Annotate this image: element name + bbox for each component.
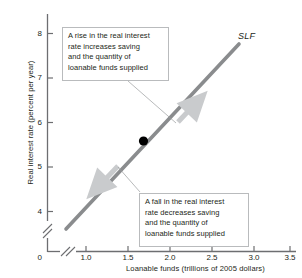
y-axis-break-icon — [43, 224, 52, 238]
x-tick-label-1-5: 1.5 — [115, 253, 141, 262]
fall-callout-line-2: rate decreases saving — [145, 208, 244, 219]
y-tick-label-5: 5 — [28, 162, 42, 171]
fall-callout-leader-line — [118, 167, 140, 192]
fall-callout-line-1: A fall in the real interest — [145, 197, 244, 208]
rise-callout-box: A rise in the real interest rate increas… — [62, 27, 169, 81]
y-tick-label-7: 7 — [28, 73, 42, 82]
rise-callout-leader-line — [128, 81, 176, 123]
equilibrium-point — [139, 136, 148, 145]
figure-loanable-funds-supply: Real interest rate (percent per year) Lo… — [0, 0, 302, 278]
x-tick-label-3-0: 3.0 — [241, 253, 267, 262]
y-tick-label-6: 6 — [28, 118, 42, 127]
y-tick-label-4: 4 — [28, 207, 42, 216]
x-tick-label-2-0: 2.0 — [157, 253, 183, 262]
x-axis-title: Loanable funds (trillions of 2005 dollar… — [126, 264, 265, 273]
y-tick-label-8: 8 — [28, 29, 42, 38]
rise-callout-line-2: rate increases saving — [68, 42, 164, 53]
y-tick-marks — [48, 34, 54, 212]
rise-callout-line-1: A rise in the real interest — [68, 31, 164, 42]
x-tick-label-2-5: 2.5 — [199, 253, 225, 262]
rise-callout-line-3: and the quantity of — [68, 52, 164, 63]
x-tick-label-1-0: 1.0 — [73, 253, 99, 262]
origin-label: 0 — [28, 253, 42, 262]
fall-callout-box: A fall in the real interest rate decreas… — [139, 193, 249, 247]
fall-callout-line-3: and the quantity of — [145, 218, 244, 229]
fall-callout-line-4: loanable funds supplied — [145, 229, 244, 240]
x-tick-label-3-5: 3.5 — [277, 253, 302, 262]
rise-callout-line-4: loanable funds supplied — [68, 63, 164, 74]
slf-curve-label: SLF — [238, 31, 255, 41]
